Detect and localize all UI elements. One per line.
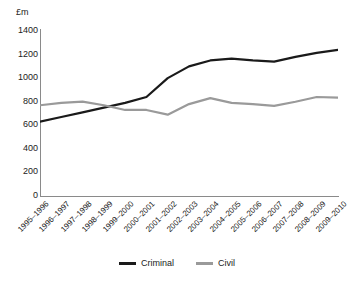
y-axis-tick: 1200 (8, 50, 38, 59)
series-line-criminal (40, 50, 338, 122)
plot-area (40, 31, 338, 196)
legend-label: Criminal (141, 259, 174, 268)
legend-item-civil: Civil (196, 259, 235, 268)
line-chart: £m 0200400600800100012001400 1995–199619… (0, 0, 354, 281)
y-axis-tick: 600 (8, 120, 38, 129)
chart-legend: CriminalCivil (0, 259, 354, 268)
y-axis-tick: 1000 (8, 73, 38, 82)
y-axis-tick: 800 (8, 97, 38, 106)
x-axis-tick-labels: 1995–19961996–19971997–19981998–19991999… (0, 196, 354, 256)
y-axis-tick: 400 (8, 144, 38, 153)
legend-item-criminal: Criminal (119, 259, 174, 268)
legend-swatch-icon (196, 262, 213, 265)
y-axis-tick: 1400 (8, 26, 38, 35)
legend-label: Civil (218, 259, 235, 268)
series-lines (40, 31, 338, 196)
y-axis-tick: 200 (8, 167, 38, 176)
legend-swatch-icon (119, 262, 136, 265)
